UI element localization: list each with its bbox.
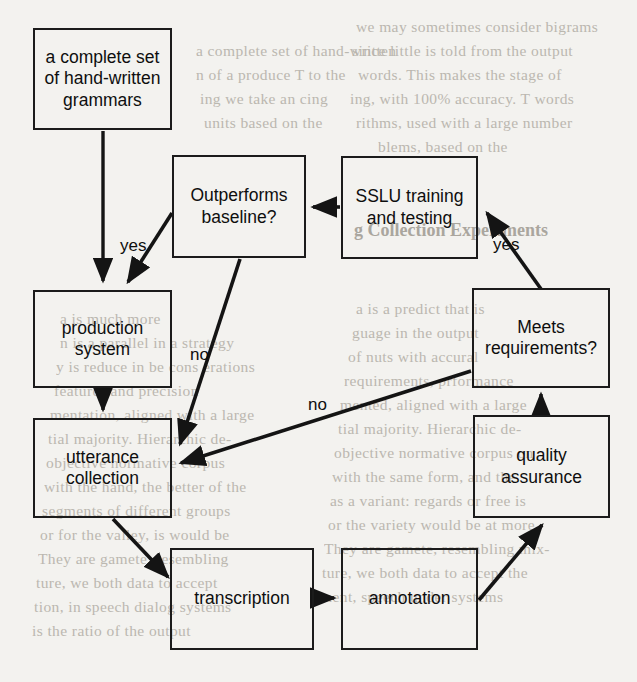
node-label: Meets requirements? [485,317,597,360]
figure-page: we may sometimes consider bigramssince l… [0,0,637,682]
edge-label-yes-right: yes [493,235,519,255]
node-label: a complete set of hand-written grammars [45,47,161,111]
node-annotation[interactable]: annotation [341,548,478,650]
edge-label-no-upper: no [190,345,209,365]
node-utterance-collection[interactable]: utterance collection [33,418,172,518]
node-quality-assurance[interactable]: quality assurance [473,415,610,518]
edge-label-yes-left: yes [120,236,146,256]
node-label: Outperforms baseline? [190,185,287,228]
edge-outperforms-no-utterance [180,259,240,444]
node-transcription[interactable]: transcription [170,548,314,650]
node-sslu-training-and-testing[interactable]: SSLU training and testing [341,156,478,259]
node-complete-set-of-hand-written-grammars[interactable]: a complete set of hand-written grammars [33,28,172,130]
edge-utterance-to-transcription [113,519,168,577]
node-label: SSLU training and testing [356,186,464,229]
node-production-system[interactable]: production system [33,290,172,388]
edge-label-no-lower: no [308,395,327,415]
edge-meets-no-utterance [181,371,471,463]
node-outperforms-baseline[interactable]: Outperforms baseline? [172,155,306,258]
edge-annotation-to-quality [479,525,542,600]
node-label: annotation [369,588,451,609]
node-meets-requirements[interactable]: Meets requirements? [472,288,610,388]
node-label: utterance collection [66,447,139,490]
node-label: transcription [194,588,289,609]
node-label: production system [62,318,144,361]
node-label: quality assurance [501,445,582,488]
